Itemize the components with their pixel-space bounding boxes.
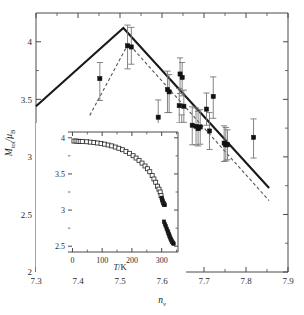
main-x-tick-label: 7.8 [240,276,252,286]
data-marker-filled-square [198,125,202,129]
inset-marker-filled-square [163,203,166,206]
inset-y-tick-label: 3.5 [55,170,65,179]
inset-x-tick-label: 200 [126,256,138,265]
inset-plot-panel: 0100200300 2.533.54 T/K [36,123,186,275]
inset-x-tick-label: 100 [96,256,108,265]
data-marker-filled-square [211,94,215,98]
data-marker-filled-square [177,104,181,108]
main-x-tick-label: 7.5 [114,276,126,286]
inset-marker-filled-square [172,242,175,245]
data-marker-filled-square [182,104,186,108]
main-x-tick-label: 7.6 [156,276,168,286]
data-marker-filled-square [225,143,229,147]
data-marker-filled-square [98,77,102,81]
data-marker-filled-square [129,45,133,49]
inset-marker-open-square [80,140,84,144]
data-marker-filled-square [167,90,171,94]
main-x-tick-label: 7.9 [282,276,294,286]
magnetization-figure: 7.37.47.57.67.77.87.9 22.533.54 nv Mtot/… [0,0,304,315]
main-y-tick-label: 2 [28,267,33,277]
main-x-tick-label: 7.7 [198,276,210,286]
inset-x-axis-title: T/K [113,262,127,272]
figure-container: 7.37.47.57.67.77.87.9 22.533.54 nv Mtot/… [0,0,304,315]
inset-x-axis-title-rest: /K [118,262,127,272]
main-y-axis-title-denominator-sub: B [9,129,16,134]
main-y-tick-label: 4 [28,37,33,47]
inset-y-tick-label: 2.5 [55,242,65,251]
main-x-tick-label: 7.3 [30,276,42,286]
data-marker-filled-square [180,75,184,79]
main-x-axis-title-sub: v [163,300,166,307]
main-y-tick-label: 2.5 [21,210,33,220]
inset-y-tick-label: 4 [61,134,65,143]
data-marker-filled-square [207,129,211,133]
main-y-tick-label: 3 [28,152,33,162]
main-x-tick-label: 7.4 [72,276,84,286]
inset-x-tick-label: 300 [156,256,168,265]
data-marker-filled-square [156,115,160,119]
data-marker-filled-square [204,107,208,111]
main-y-tick-label: 3.5 [21,95,33,105]
inset-x-tick-label: 0 [70,256,74,265]
inset-y-tick-label: 3 [61,206,65,215]
inset-marker-open-square [154,180,158,184]
data-marker-filled-square [251,135,255,139]
